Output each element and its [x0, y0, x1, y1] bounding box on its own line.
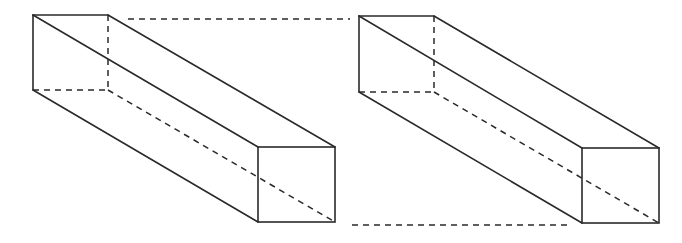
- right-prism-visible-edges: [359, 16, 659, 223]
- prism-diagram: [0, 0, 682, 243]
- left-long-top-left-edge: [33, 15, 258, 147]
- right-long-bottom-left-edge: [359, 92, 582, 223]
- left-prism: [33, 15, 335, 222]
- connectors: [128, 19, 568, 225]
- right-front-face: [582, 148, 659, 223]
- right-prism-hidden-edges: [359, 16, 659, 223]
- left-long-bottom-right-hidden-edge: [108, 90, 335, 222]
- right-prism: [359, 16, 659, 223]
- left-long-top-right-edge: [108, 15, 335, 147]
- left-prism-hidden-edges: [33, 15, 335, 222]
- right-long-bottom-right-hidden-edge: [434, 92, 659, 223]
- left-long-bottom-left-edge: [33, 90, 258, 222]
- diagram-canvas: [0, 0, 682, 243]
- left-prism-visible-edges: [33, 15, 335, 222]
- right-long-top-right-edge: [434, 16, 659, 148]
- right-long-top-left-edge: [359, 16, 582, 148]
